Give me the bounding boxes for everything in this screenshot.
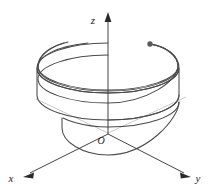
axis-group	[23, 12, 191, 178]
x-axis-arrowhead	[23, 173, 34, 179]
negative-y-axis-line	[36, 99, 108, 133]
helix-endpoint-dot	[147, 41, 152, 46]
y-axis-line	[108, 134, 184, 173]
origin-label: O	[97, 135, 104, 146]
y-axis-arrowhead	[180, 173, 191, 179]
z-axis-label: z	[90, 14, 96, 26]
x-axis-label: x	[8, 172, 14, 184]
helix-diagram-canvas: z x y O	[0, 0, 212, 189]
x-axis-line	[30, 134, 108, 173]
helix-figure: z x y O	[0, 0, 212, 189]
hidden-axis-group	[36, 97, 186, 133]
helix-coil-3	[63, 95, 179, 127]
y-axis-label: y	[195, 172, 201, 184]
z-axis-arrowhead	[105, 12, 112, 22]
helix-coil-bottom	[62, 102, 179, 155]
